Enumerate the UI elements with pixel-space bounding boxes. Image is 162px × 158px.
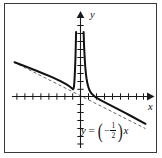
equation-fraction: 1 2 [110,122,116,139]
y-axis-label: y [89,9,95,20]
equation-minus-sign: − [104,126,110,136]
fraction-denominator: 2 [111,132,117,140]
y-axis-arrowhead [77,11,85,18]
x-axis-label: x [147,101,153,112]
equation-fraction-group: − 1 2 [104,122,116,139]
fraction-numerator: 1 [111,122,117,130]
curve-right-branch [84,32,146,124]
figure-container: y x y = ( − 1 2 ) x [0,0,162,158]
equation-annotation: y = ( − 1 2 ) x [81,122,128,139]
equation-lhs: y [81,125,86,136]
x-axis-arrowhead [147,93,155,101]
equation-equals-sign: = [88,125,94,136]
equation-close-paren: ) [118,123,123,139]
equation-open-paren: ( [98,123,103,139]
equation-trailing-variable: x [124,125,129,136]
curve-left-branch [15,32,77,89]
